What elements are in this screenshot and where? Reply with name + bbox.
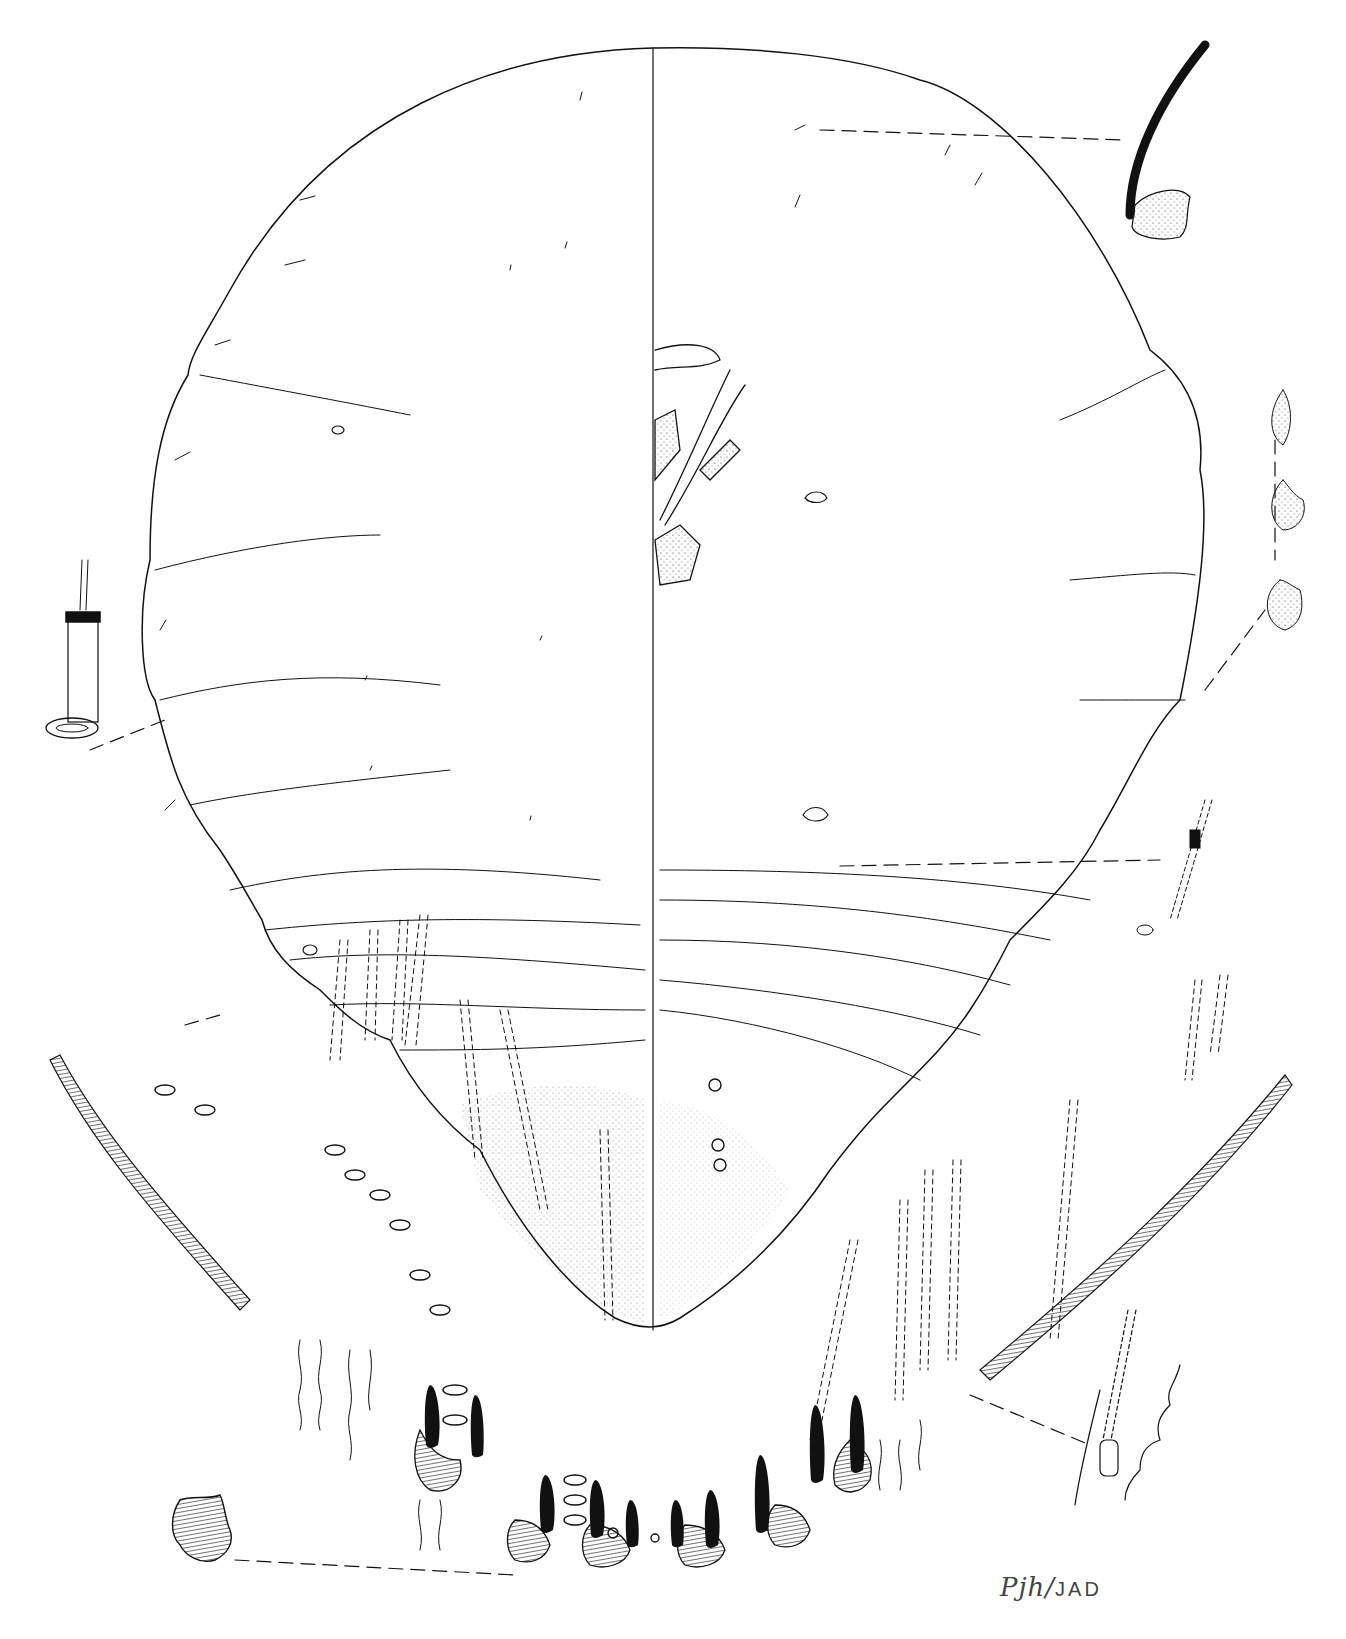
dorsal-setae bbox=[160, 92, 982, 820]
inset-tubular-duct bbox=[46, 560, 100, 738]
inset-ventral-pores bbox=[1267, 390, 1304, 630]
signature-separator: / bbox=[1045, 1572, 1055, 1602]
mouthparts bbox=[655, 345, 745, 585]
signature-initials: Pjh bbox=[1000, 1572, 1045, 1602]
marginal-fringe-right bbox=[980, 1075, 1292, 1380]
leader-lines bbox=[90, 130, 1275, 1575]
anal-area-right bbox=[660, 1100, 790, 1320]
scale-insect-illustration bbox=[0, 0, 1346, 1639]
signature-coauthor: JAD bbox=[1055, 1578, 1102, 1600]
inset-ventral-duct bbox=[1137, 800, 1212, 935]
inset-dorsal-seta bbox=[1130, 45, 1205, 239]
fringe-processes bbox=[299, 1340, 922, 1550]
marginal-fringe-left bbox=[50, 1055, 250, 1310]
illustrator-signature: Pjh/JAD bbox=[1000, 1572, 1102, 1602]
anal-plate-area bbox=[460, 1086, 645, 1325]
segment-lines-right bbox=[660, 370, 1195, 1080]
inset-fringe-plate bbox=[173, 1495, 232, 1561]
inset-fringe-process bbox=[1075, 1310, 1180, 1505]
segment-lines-left bbox=[155, 375, 645, 1050]
spiracles bbox=[303, 426, 828, 955]
